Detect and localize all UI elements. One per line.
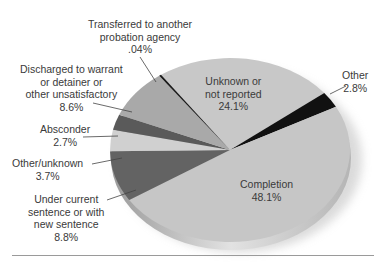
label-value: 24.1% xyxy=(205,100,262,113)
label-value: 8.8% xyxy=(28,231,104,244)
label-line: sentence or with xyxy=(28,206,104,219)
label-value: 8.6% xyxy=(20,101,123,114)
label-under-current: Under current sentence or with new sente… xyxy=(28,193,104,243)
label-line: Absconder xyxy=(40,123,90,136)
label-value: 2.7% xyxy=(40,136,90,149)
label-line: Transferred to another xyxy=(88,18,192,31)
label-line: Unknown or xyxy=(205,75,262,88)
label-completion: Completion 48.1% xyxy=(240,178,293,203)
label-line: probation agency xyxy=(88,31,192,44)
label-line: Other xyxy=(342,69,368,82)
label-value: 48.1% xyxy=(240,191,293,204)
label-line: Discharged to warrant xyxy=(20,63,123,76)
label-line: Other/unknown xyxy=(12,157,83,170)
label-other-unknown: Other/unknown 3.7% xyxy=(12,157,83,182)
leader-transferred xyxy=(140,57,156,82)
label-value: 2.8% xyxy=(342,82,368,95)
label-value: .04% xyxy=(88,43,192,56)
label-transferred: Transferred to another probation agency … xyxy=(88,18,192,56)
label-line: Completion xyxy=(240,178,293,191)
label-other: Other 2.8% xyxy=(342,69,368,94)
label-value: 3.7% xyxy=(12,170,83,183)
label-line: new sentence xyxy=(28,218,104,231)
label-line: other unsatisfactory xyxy=(20,88,123,101)
label-line: or detainer or xyxy=(20,76,123,89)
label-line: not reported xyxy=(205,88,262,101)
label-line: Under current xyxy=(28,193,104,206)
bottom-rule xyxy=(12,255,374,256)
label-absconder: Absconder 2.7% xyxy=(40,123,90,148)
label-unknown: Unknown or not reported 24.1% xyxy=(205,75,262,113)
label-discharged: Discharged to warrant or detainer or oth… xyxy=(20,63,123,113)
